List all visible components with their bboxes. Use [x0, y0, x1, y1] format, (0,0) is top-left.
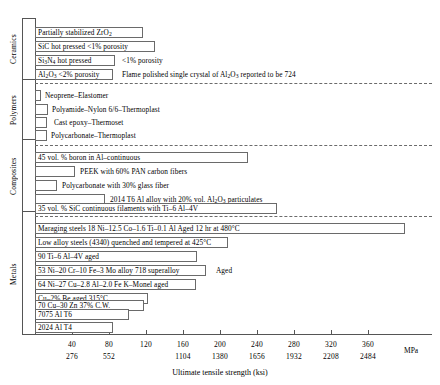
x-tick-mpa-2208: 2208: [311, 352, 351, 361]
separator-polymers-composites: [35, 145, 432, 146]
group-bracket-ceramics: [22, 18, 23, 79]
x-tick-mpa-1380: 1380: [200, 352, 240, 361]
bar-polycarbonate-glass-fiber: [35, 180, 57, 191]
group-tick-ceramics-bottom: [22, 79, 35, 80]
x-tick-240: [257, 330, 258, 335]
note-text: Flame polished single crystal of Al: [122, 70, 227, 79]
bar-label-neoprene-elastomer: Neoprene–Elastomer: [45, 90, 108, 101]
x-tick-120: [146, 330, 147, 335]
bar-label-al2o3-porosity: Al2O3 <2% porosity: [38, 69, 99, 82]
x-tick-320: [331, 330, 332, 335]
bar-label-cast-epoxy: Cast epoxy–Thermoset: [54, 117, 123, 128]
x-tick-label-40: 40: [52, 340, 92, 349]
note-superalloy-aged: Aged: [216, 265, 232, 276]
x-axis-title: Ultimate tensile strength (ksi): [0, 368, 440, 377]
bar-label-text-3: hot pressed: [55, 56, 91, 65]
bar-label-boron-in-al: 45 vol. % boron in Al–continuous: [38, 152, 140, 163]
group-label-polymers: Polymers: [9, 84, 18, 136]
bar-label-low-alloy-steels: Low alloy steels (4340) quenched and tem…: [38, 237, 211, 248]
x-tick-label-160: 160: [163, 340, 203, 349]
mpa-unit-label: MPa: [404, 346, 418, 355]
note-text-3: reported to be 724: [239, 70, 296, 79]
group-tick-ceramics-top: [22, 18, 35, 19]
separator-composites-metals: [35, 216, 432, 217]
bar-label-polycarbonate-thermoplast: Polycarbonate–Thermoplast: [51, 130, 136, 141]
bar-label-alloy-718-superalloy: 53 Ni–20 Cr–10 Fe–3 Mo alloy 718 superal…: [38, 265, 180, 276]
x-tick-label-80: 80: [89, 340, 129, 349]
group-tick-metals-bottom: [22, 334, 35, 335]
group-label-ceramics: Ceramics: [9, 22, 18, 76]
bar-label-90-ti-6al-4v: 90 Ti–6 Al–4V aged: [38, 251, 99, 262]
x-tick-mpa-1104: 1104: [163, 352, 203, 361]
x-tick-label-280: 280: [274, 340, 314, 349]
bar-label-peek-pan-carbon: PEEK with 60% PAN carbon fibers: [80, 166, 187, 177]
x-tick-160: [183, 330, 184, 335]
bar-neoprene-elastomer: [35, 90, 41, 101]
bar-label-si3n4-hot-pressed: Si3N4 hot pressed: [38, 55, 92, 68]
bar-label-k-monel: 64 Ni–27 Cu–2.8 Al–2.0 Fe K–Monel aged: [38, 279, 168, 290]
bar-label-text-3: <2% porosity: [57, 70, 100, 79]
x-tick-label-120: 120: [126, 340, 166, 349]
note-flame-polished-al2o3: Flame polished single crystal of Al2O3 r…: [122, 69, 296, 82]
note-si3n4-porosity: <1% porosity: [122, 55, 163, 66]
x-tick-200: [220, 330, 221, 335]
bar-cast-epoxy: [35, 117, 47, 128]
bar-label-maraging-steels: Maraging steels 18 Ni–12.5 Co–1.6 Ti–0.1…: [38, 223, 240, 234]
x-tick-label-320: 320: [311, 340, 351, 349]
group-label-metals: Metals: [9, 248, 18, 300]
x-tick-mpa-1932: 1932: [274, 352, 314, 361]
bar-label-sic-filaments-ti: 35 vol. % SiC continuous filaments with …: [38, 203, 198, 214]
bar-label-text: Partially stabilized ZrO: [38, 28, 109, 37]
bar-label-polyamide-nylon: Polyamide–Nylon 6/6–Thermoplast: [52, 104, 160, 115]
bar-label-partially-stabilized-zro2: Partially stabilized ZrO2: [38, 27, 112, 40]
bar-label-text: Al: [38, 70, 46, 79]
x-tick-label-240: 240: [237, 340, 277, 349]
bar-peek-pan-carbon: [35, 166, 75, 177]
bar-label-polycarbonate-glass-fiber: Polycarbonate with 30% glass fiber: [62, 180, 169, 191]
bar-polycarbonate-thermoplast: [35, 130, 47, 141]
x-tick-label-360: 360: [348, 340, 388, 349]
x-tick-label-200: 200: [200, 340, 240, 349]
x-tick-mpa-276: 276: [52, 352, 92, 361]
x-tick-mpa-2484: 2484: [348, 352, 388, 361]
group-bracket-composites: [22, 139, 23, 211]
bar-label-7075-al-t6: 7075 Al T6: [38, 309, 72, 320]
group-label-composites: Composites: [9, 144, 18, 208]
x-axis-line: [35, 334, 432, 335]
separator-ceramics-polymers: [35, 83, 432, 84]
bar-label-sic-hot-pressed: SiC hot pressed <1% porosity: [38, 41, 128, 52]
group-tick-composites-bottom: [22, 211, 35, 212]
group-tick-polymers-bottom: [22, 139, 35, 140]
subscript: 2: [109, 31, 112, 37]
x-tick-mpa-552: 552: [89, 352, 129, 361]
x-tick-280: [294, 330, 295, 335]
group-bracket-metals: [22, 211, 23, 334]
bar-label-2024-al-t4: 2024 Al T4: [38, 322, 72, 333]
x-tick-360: [368, 330, 369, 335]
x-tick-mpa-1656: 1656: [237, 352, 277, 361]
bar-polyamide-nylon: [35, 104, 48, 115]
group-bracket-polymers: [22, 79, 23, 139]
materials-strength-chart: 40 80 120 160 200 240 280 320 360 276 55…: [0, 0, 440, 385]
